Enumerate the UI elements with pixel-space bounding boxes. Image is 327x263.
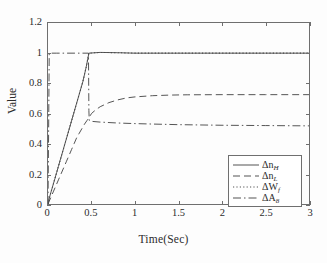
- y-tick-label: 0.4: [0, 138, 42, 149]
- x-tick-label: 2.5: [246, 207, 286, 218]
- x-tick: [310, 22, 311, 26]
- x-tick: [135, 22, 136, 26]
- legend-item-dA_8: ΔA8: [232, 192, 297, 203]
- x-axis-title: Time(Sec): [0, 233, 327, 245]
- x-tick-label: 0.5: [71, 207, 111, 218]
- y-tick: [306, 83, 310, 84]
- y-tick: [47, 114, 51, 115]
- y-tick: [306, 114, 310, 115]
- y-tick-label: 1.2: [0, 16, 42, 27]
- legend-line-sample: [232, 171, 260, 181]
- legend-line-sample: [232, 182, 260, 192]
- legend-line-sample: [232, 160, 260, 170]
- y-tick: [306, 144, 310, 145]
- legend-label: ΔnH: [260, 160, 279, 170]
- y-tick: [306, 53, 310, 54]
- x-tick: [266, 22, 267, 26]
- x-tick: [179, 22, 180, 26]
- x-tick: [222, 22, 223, 26]
- y-tick: [306, 22, 310, 23]
- y-tick: [47, 22, 51, 23]
- x-tick: [222, 201, 223, 205]
- x-tick: [310, 201, 311, 205]
- legend-line-sample: [232, 193, 260, 203]
- y-tick-label: 0.2: [0, 169, 42, 180]
- x-tick-label: 1.5: [159, 207, 199, 218]
- legend: ΔnHΔnLΔWfΔA8: [228, 155, 302, 207]
- figure-root: 00.511.522.53 00.20.40.60.811.2 Time(Sec…: [0, 0, 327, 263]
- y-tick: [306, 205, 310, 206]
- x-tick: [91, 22, 92, 26]
- x-tick-label: 3: [290, 207, 327, 218]
- y-tick: [47, 205, 51, 206]
- y-tick-label: 1: [0, 47, 42, 58]
- legend-item-dn_L: ΔnL: [232, 170, 297, 181]
- legend-item-dW_f: ΔWf: [232, 181, 297, 192]
- y-axis-title: Value: [6, 71, 18, 131]
- legend-label: ΔWf: [260, 182, 280, 192]
- y-tick: [47, 83, 51, 84]
- x-tick: [135, 201, 136, 205]
- y-tick: [47, 175, 51, 176]
- y-tick: [47, 144, 51, 145]
- x-tick-label: 2: [202, 207, 242, 218]
- x-tick: [179, 201, 180, 205]
- y-tick-label: 0: [0, 199, 42, 210]
- legend-label: ΔnL: [260, 171, 277, 181]
- legend-item-dn_H: ΔnH: [232, 159, 297, 170]
- y-tick: [47, 53, 51, 54]
- legend-label: ΔA8: [260, 193, 279, 203]
- x-tick: [91, 201, 92, 205]
- y-tick: [306, 175, 310, 176]
- x-tick-label: 1: [115, 207, 155, 218]
